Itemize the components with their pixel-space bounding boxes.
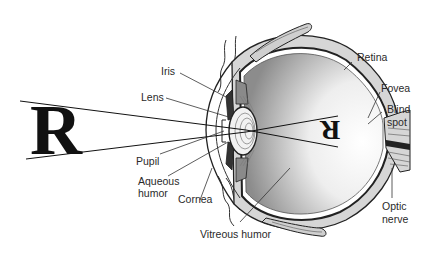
label-cornea: Cornea (178, 193, 212, 205)
label-aqueous-humor-2: humor (138, 187, 168, 199)
label-retina: Retina (357, 51, 387, 63)
retinal-image-letter: R (320, 116, 340, 144)
label-blind-spot-1: Blind (387, 103, 410, 115)
label-optic-nerve-2: nerve (382, 213, 408, 225)
label-blind-spot-2: spot (387, 116, 407, 128)
label-lens: Lens (141, 91, 164, 103)
label-aqueous-humor-1: Aqueous (138, 175, 179, 187)
label-pupil: Pupil (136, 155, 159, 167)
object-letter: R (30, 100, 82, 160)
eye-diagram: R R Iris Lens Pupil Aqueous humor Cornea… (0, 0, 426, 262)
label-iris: Iris (161, 65, 175, 77)
label-optic-nerve-1: Optic (382, 200, 407, 212)
label-vitreous-humor: Vitreous humor (200, 228, 271, 240)
label-fovea: Fovea (381, 82, 410, 94)
